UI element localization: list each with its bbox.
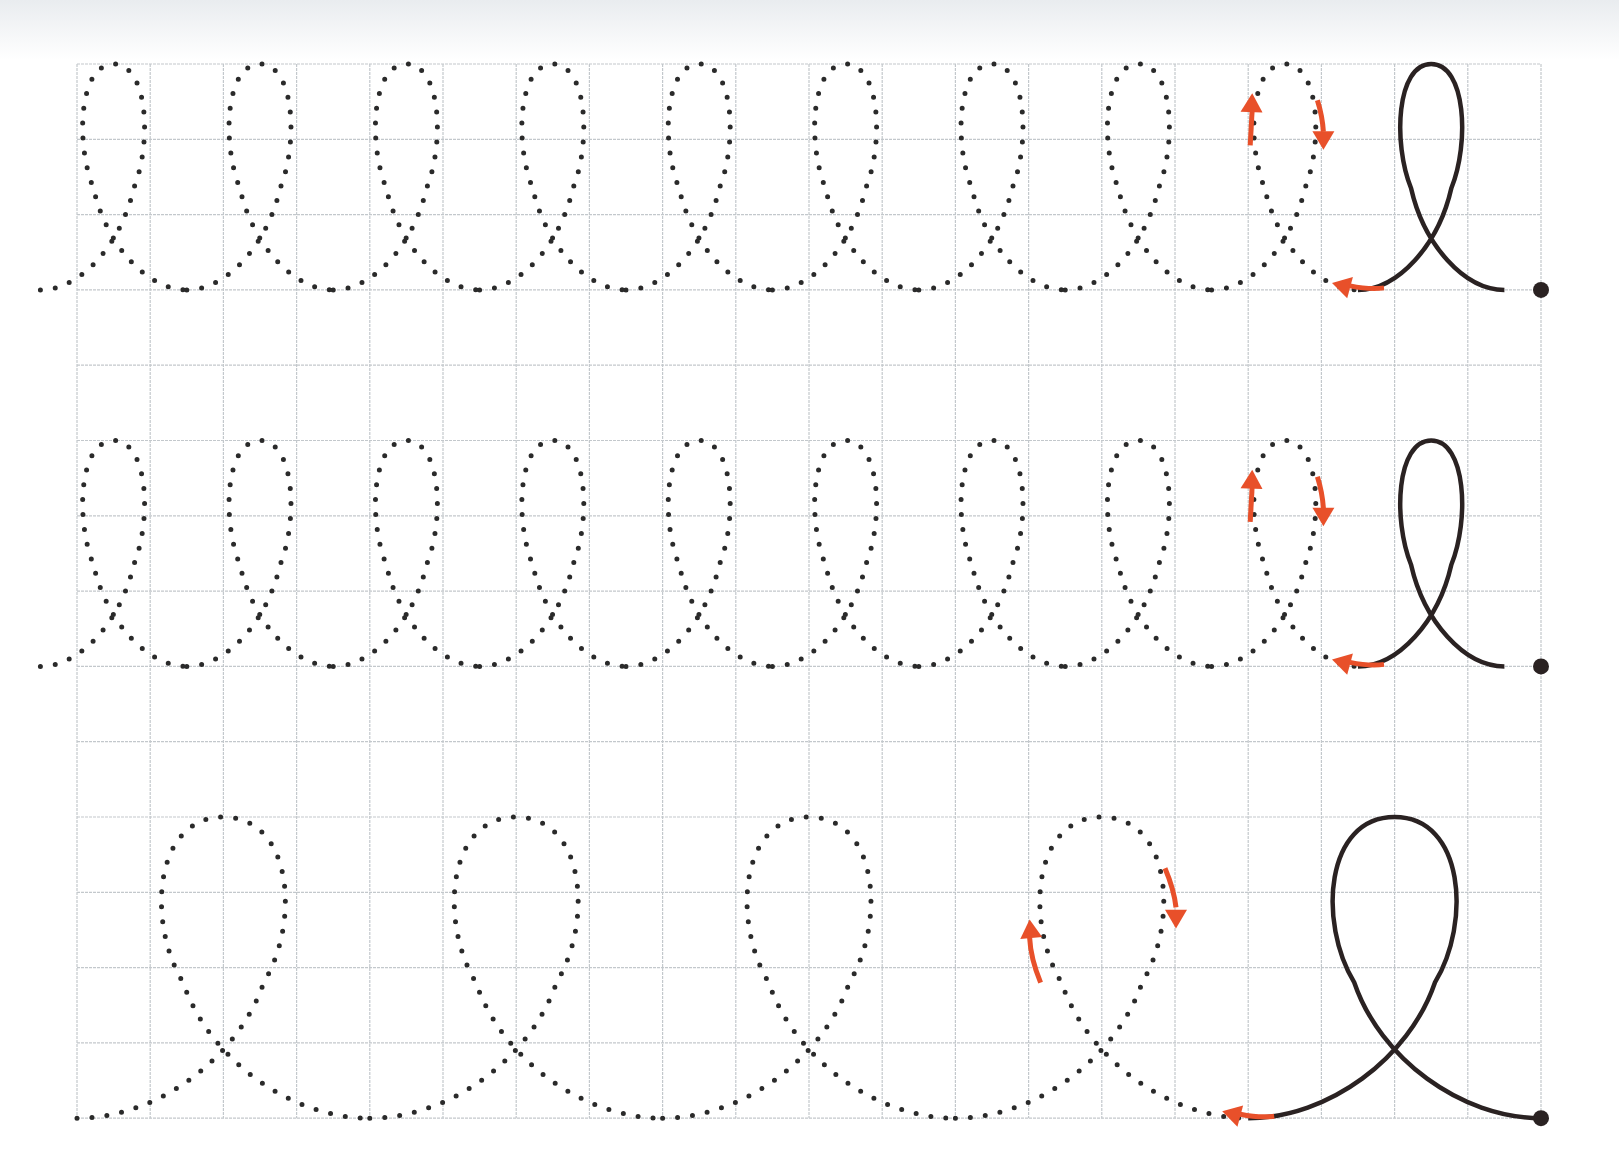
dotted-tracing-loops	[40, 64, 1358, 290]
arrow-left-icon	[1219, 1101, 1243, 1127]
direction-arrow-stroke	[1250, 109, 1252, 145]
direction-arrow-stroke	[1350, 662, 1384, 665]
solid-model-loop	[1358, 64, 1504, 290]
direction-arrow-stroke	[1317, 100, 1323, 132]
start-dot-icon	[1533, 658, 1549, 674]
row-2-small-loops	[40, 441, 1549, 675]
arrow-left-icon	[1329, 272, 1353, 298]
solid-model-loop	[1358, 441, 1504, 667]
direction-arrow-stroke	[1165, 868, 1176, 907]
dotted-tracing-loops	[40, 441, 1358, 667]
tracing-worksheet	[0, 0, 1619, 1164]
direction-arrow-stroke	[1350, 286, 1384, 289]
arrow-up-icon	[1241, 469, 1264, 488]
row-1-small-loops	[40, 64, 1549, 298]
arrow-down-icon	[1165, 910, 1187, 929]
row-3-large-loops	[77, 817, 1549, 1127]
grid-lines	[77, 64, 1541, 1118]
direction-arrow-stroke	[1240, 1114, 1274, 1117]
start-dot-icon	[1533, 1110, 1549, 1126]
direction-arrow-stroke	[1317, 477, 1323, 509]
arrow-left-icon	[1329, 649, 1353, 675]
direction-arrow-stroke	[1030, 937, 1041, 982]
start-dot-icon	[1533, 282, 1549, 298]
arrow-up-icon	[1241, 93, 1264, 112]
direction-arrow-stroke	[1250, 486, 1252, 522]
